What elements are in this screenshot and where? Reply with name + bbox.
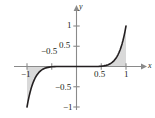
x-axis-arrow-icon xyxy=(141,64,147,70)
y-tick-label--0-5: −0.5 xyxy=(55,83,71,92)
x-tick-label--0-5: −0.5 xyxy=(41,47,57,56)
figure-container: −1 −0.5 0.5 1 1 0.5 −0.5 −1 y x xyxy=(0,0,155,118)
y-tick-label--1: −1 xyxy=(63,103,73,112)
axis-lines xyxy=(14,5,147,110)
y-tick-label-1: 1 xyxy=(67,21,72,30)
shaded-area-right xyxy=(77,26,127,67)
y-tick-label-0-5: 0.5 xyxy=(59,41,70,50)
x-axis-label: x xyxy=(148,62,152,70)
y-axis-label: y xyxy=(79,3,83,11)
x-tick-label-0-5: 0.5 xyxy=(94,70,105,79)
chart-canvas xyxy=(0,0,155,118)
x-tick-label-1: 1 xyxy=(124,70,129,79)
x-tick-label--1: −1 xyxy=(21,70,31,79)
